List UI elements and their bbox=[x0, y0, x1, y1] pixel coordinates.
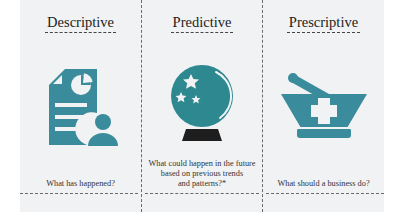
caption-line-2: based on previous trends bbox=[142, 169, 262, 179]
caption-line-1: What could happen in the future bbox=[142, 159, 262, 169]
row-divider-2 bbox=[145, 193, 259, 194]
crystal-ball-icon bbox=[166, 62, 238, 146]
column-title: Descriptive bbox=[20, 14, 141, 33]
title-text: Prescriptive bbox=[287, 14, 360, 33]
column-title: Prescriptive bbox=[263, 14, 384, 33]
column-caption: What should a business do? bbox=[263, 179, 384, 189]
column-title: Predictive bbox=[142, 14, 262, 33]
row-divider-3 bbox=[266, 193, 384, 194]
report-chart-user-icon bbox=[41, 67, 121, 151]
column-descriptive: Descriptive What has happened? bbox=[20, 0, 141, 193]
row-divider-1 bbox=[20, 193, 138, 194]
column-predictive: Predictive What could happen in the futu… bbox=[142, 0, 262, 193]
caption-line-3: and patterns?* bbox=[142, 179, 262, 189]
column-caption: What has happened? bbox=[20, 179, 141, 189]
column-prescriptive: Prescriptive What should a business do? bbox=[263, 0, 384, 193]
title-text: Predictive bbox=[171, 14, 234, 33]
mortar-pestle-medical-cross-icon bbox=[279, 72, 369, 146]
column-caption: What could happen in the future based on… bbox=[142, 159, 262, 189]
title-text: Descriptive bbox=[45, 14, 116, 33]
